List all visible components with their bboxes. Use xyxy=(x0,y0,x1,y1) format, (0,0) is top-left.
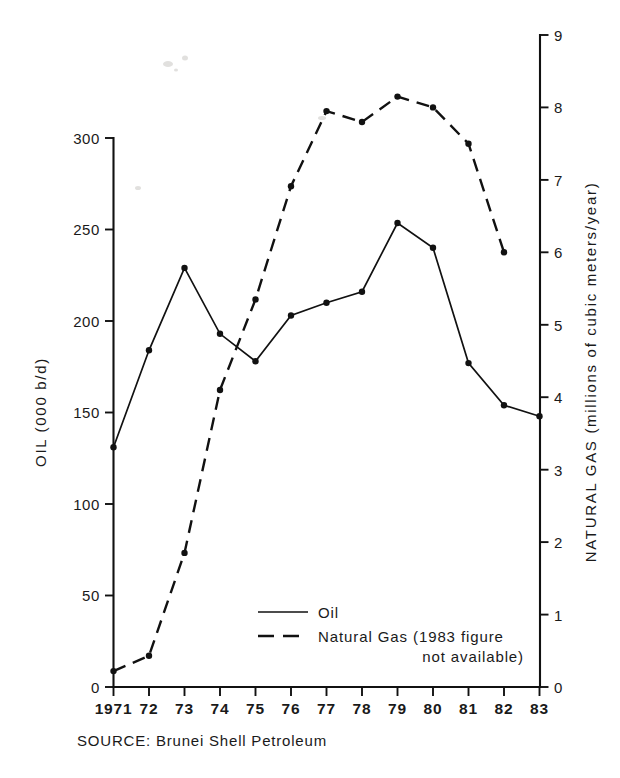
data-point-oil-1975 xyxy=(252,358,258,364)
x-tick-75: 75 xyxy=(246,700,265,717)
data-point-oil-1981 xyxy=(465,360,471,366)
y-left-axis-title: OIL (000 b/d) xyxy=(32,357,49,467)
data-point-oil-1976 xyxy=(288,312,294,318)
x-tick-81: 81 xyxy=(459,700,478,717)
x-tick-73: 73 xyxy=(175,700,194,717)
y-right-tick-1: 1 xyxy=(554,607,563,624)
x-tick-79: 79 xyxy=(388,700,407,717)
dual-axis-line-chart: 300 250 200 150 100 50 0 OIL (000 b/d) xyxy=(0,0,620,778)
x-tick-83: 83 xyxy=(530,700,549,717)
y-left-tick-0: 0 xyxy=(91,679,100,696)
y-left-tick-200: 200 xyxy=(73,313,100,330)
y-right-tick-0: 0 xyxy=(554,679,563,696)
y-left-tick-150: 150 xyxy=(73,404,100,421)
data-point-oil-1973 xyxy=(181,265,187,271)
x-tick-82: 82 xyxy=(495,700,514,717)
y-right-tick-4: 4 xyxy=(554,389,563,406)
y-right-tick-9: 9 xyxy=(554,27,563,44)
legend-item-oil: Oil xyxy=(258,604,339,621)
data-point-oil-1983 xyxy=(536,413,542,419)
data-point-oil-1971 xyxy=(110,444,116,450)
x-axis: 1971 72 73 74 75 76 77 78 79 80 81 82 83 xyxy=(95,687,549,717)
x-tick-72: 72 xyxy=(140,700,159,717)
y-left-tick-50: 50 xyxy=(82,587,100,604)
data-point-oil-1979 xyxy=(394,220,400,226)
y-right-tick-5: 5 xyxy=(554,317,563,334)
y-right-tick-6: 6 xyxy=(554,244,563,261)
figure-container: 300 250 200 150 100 50 0 OIL (000 b/d) xyxy=(0,0,620,778)
data-point-oil-1980 xyxy=(430,245,436,251)
legend-label-natural-gas-line2: not available) xyxy=(422,648,524,665)
data-point-gas-1973 xyxy=(181,550,187,556)
data-point-gas-1971 xyxy=(110,668,116,674)
x-tick-1971: 1971 xyxy=(95,700,133,717)
data-point-oil-1978 xyxy=(359,289,365,295)
y-right-tick-7: 7 xyxy=(554,172,563,189)
paper-artifacts xyxy=(135,56,326,191)
data-point-gas-1982 xyxy=(501,249,507,255)
data-point-oil-1977 xyxy=(323,300,329,306)
data-point-gas-1977 xyxy=(323,108,329,114)
data-point-gas-1972 xyxy=(146,653,152,659)
legend-label-oil: Oil xyxy=(318,604,339,621)
y-left-tick-100: 100 xyxy=(73,496,100,513)
series-oil xyxy=(110,220,542,451)
left-axis: 300 250 200 150 100 50 0 xyxy=(73,130,113,696)
data-point-gas-1976 xyxy=(288,183,294,189)
data-point-gas-1978 xyxy=(359,119,365,125)
x-tick-74: 74 xyxy=(211,700,230,717)
data-point-gas-1974 xyxy=(217,387,223,393)
x-tick-80: 80 xyxy=(424,700,443,717)
legend-label-natural-gas-line1: Natural Gas (1983 figure xyxy=(318,628,504,645)
data-point-gas-1981 xyxy=(465,141,471,147)
right-axis: 9 8 7 6 5 4 3 2 1 0 xyxy=(540,27,563,696)
data-point-gas-1979 xyxy=(394,93,400,99)
y-right-tick-2: 2 xyxy=(554,534,563,551)
y-right-axis-title: NATURAL GAS (millions of cubic meters/ye… xyxy=(582,182,599,563)
y-left-tick-250: 250 xyxy=(73,221,100,238)
x-tick-78: 78 xyxy=(353,700,372,717)
legend-item-natural-gas: Natural Gas (1983 figure not available) xyxy=(258,628,524,665)
data-point-oil-1974 xyxy=(217,331,223,337)
x-tick-76: 76 xyxy=(282,700,301,717)
x-tick-77: 77 xyxy=(317,700,336,717)
data-point-gas-1975 xyxy=(252,296,258,302)
data-point-oil-1982 xyxy=(501,402,507,408)
data-point-oil-1972 xyxy=(146,347,152,353)
y-right-tick-3: 3 xyxy=(554,462,563,479)
y-right-tick-8: 8 xyxy=(554,99,563,116)
series-natural-gas xyxy=(110,93,507,674)
data-point-gas-1980 xyxy=(430,104,436,110)
legend: Oil Natural Gas (1983 figure not availab… xyxy=(258,604,524,665)
source-note: SOURCE: Brunei Shell Petroleum xyxy=(77,732,327,749)
y-left-tick-300: 300 xyxy=(73,130,100,147)
